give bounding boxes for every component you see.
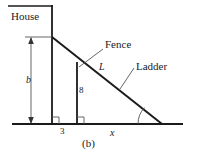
- house-height-label: b: [26, 75, 31, 85]
- height-dimension-arrow-head-down: [28, 117, 34, 124]
- figure-caption: (b): [82, 138, 95, 149]
- house-to-fence-label: 3: [60, 127, 65, 136]
- height-dimension-arrow-head-up: [28, 37, 34, 44]
- fence-to-ladder-foot-label: x: [110, 128, 114, 138]
- ladder-leader-line: [120, 68, 134, 89]
- fence-label: Fence: [105, 39, 131, 50]
- right-angle-marker-house: [52, 117, 59, 124]
- ladder-fence-house-diagram: House Fence Ladder L b 8 3 x (b): [0, 0, 197, 153]
- ladder-length-label: L: [99, 62, 105, 72]
- ladder-line: [52, 37, 162, 124]
- house-label: House: [11, 11, 39, 22]
- ladder-label: Ladder: [136, 61, 167, 72]
- fence-height-label: 8: [79, 86, 84, 95]
- right-angle-marker-fence: [77, 117, 84, 124]
